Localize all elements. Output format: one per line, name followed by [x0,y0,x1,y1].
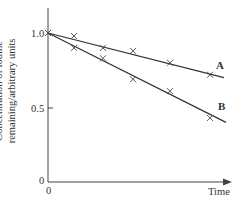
series-b-label: B [218,100,226,112]
chart-canvas: A B 1.0 0.5 0 0 Time [0,0,234,200]
series-lines [48,33,226,122]
data-point-cross-icon [130,48,136,54]
series-a-label: A [216,59,224,71]
data-point-cross-icon [207,115,213,121]
x-tick-label-0: 0 [46,185,51,196]
data-point-cross-icon [167,60,173,66]
data-point-cross-icon [71,33,77,39]
data-point-cross-icon [167,88,173,94]
y-tick-label-05: 0.5 [31,103,44,114]
y-axis-label: Concentration of iodine remaining/arbitr… [0,26,26,156]
x-axis-arrow-icon [223,179,232,186]
series-line-b [48,33,226,122]
y-tick-label-0: 0 [39,175,44,186]
y-axis-label-line2: remaining/arbitrary units [5,26,18,156]
series-line-a [48,33,224,78]
x-axis-label: Time [208,186,230,197]
data-point-cross-icon [130,76,136,82]
y-tick-label-1: 1.0 [31,28,44,39]
